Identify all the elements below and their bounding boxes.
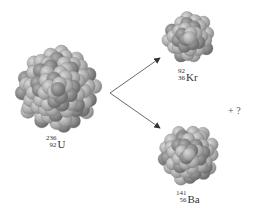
barium-symbol: Ba bbox=[188, 194, 200, 205]
krypton-label: 9236Kr bbox=[178, 68, 198, 83]
krypton-nucleus bbox=[162, 11, 214, 62]
krypton-symbol: Kr bbox=[186, 72, 198, 83]
arrow-to-krypton bbox=[110, 58, 160, 93]
nucleon bbox=[51, 82, 65, 96]
nucleon bbox=[183, 31, 196, 44]
barium-label: 14156Ba bbox=[176, 190, 200, 205]
uranium-nucleus bbox=[15, 45, 102, 133]
arrow-to-barium bbox=[110, 93, 160, 128]
krypton-atomic-number: 36 bbox=[178, 75, 185, 82]
fission-diagram bbox=[0, 0, 255, 211]
unknown-product-label: + ? bbox=[228, 105, 241, 116]
uranium-label: 23692U bbox=[46, 135, 65, 150]
barium-atomic-number: 56 bbox=[176, 197, 187, 204]
nucleon bbox=[183, 148, 196, 161]
uranium-atomic-number: 92 bbox=[46, 142, 57, 149]
barium-nucleus bbox=[158, 126, 218, 185]
uranium-symbol: U bbox=[58, 139, 66, 150]
